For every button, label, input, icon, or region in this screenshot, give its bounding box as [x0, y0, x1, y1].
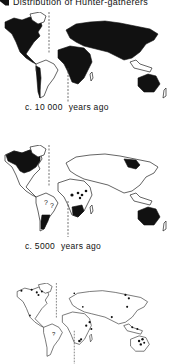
caption-5000: c. 5000years ago — [25, 241, 101, 251]
north-america — [17, 287, 49, 327]
caption-10000: c. 10 000years ago — [25, 102, 109, 112]
figure-title-text: Distribution of Hunter-gatherers — [13, 0, 148, 7]
africa — [62, 312, 91, 344]
svg-text:?: ? — [44, 199, 48, 206]
madagascar — [90, 72, 93, 81]
legend-swatch-icon — [0, 0, 9, 6]
southern-africa — [72, 205, 84, 217]
world-map-10000 — [0, 12, 175, 102]
madagascar — [90, 334, 93, 342]
north-america — [5, 17, 42, 64]
south-america-south — [41, 215, 50, 229]
australia — [138, 74, 160, 92]
se-asia-islands — [130, 193, 152, 205]
south-america-west-coast — [36, 66, 41, 98]
australia — [138, 207, 160, 225]
australia — [131, 336, 150, 351]
se-asia-islands — [124, 324, 143, 334]
madagascar — [90, 205, 93, 214]
figure-title: Distribution of Hunter-gatherers — [0, 0, 148, 7]
new-zealand — [163, 221, 166, 231]
africa — [58, 46, 92, 84]
new-zealand — [163, 88, 166, 98]
world-map-5000: ? ? — [0, 145, 175, 240]
world-map-present: ? — [0, 283, 175, 364]
se-asia-islands — [130, 60, 152, 72]
svg-text:?: ? — [50, 202, 54, 209]
south-america — [44, 324, 63, 356]
